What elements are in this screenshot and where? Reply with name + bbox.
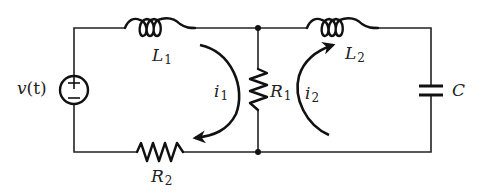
inductor-l2 xyxy=(307,18,378,36)
voltage-source xyxy=(60,76,88,104)
label-r1: R1 xyxy=(270,83,291,102)
circuit-diagram xyxy=(0,0,484,195)
resistor-r2 xyxy=(137,143,183,161)
label-l2: L2 xyxy=(345,45,365,64)
label-source: v(t) xyxy=(17,80,47,97)
junction-top xyxy=(255,25,261,31)
label-r2: R2 xyxy=(151,168,172,187)
label-l1: L1 xyxy=(152,47,172,66)
label-i1: i1 xyxy=(214,83,228,102)
capacitor-c xyxy=(419,86,443,95)
resistor-r1 xyxy=(250,69,267,110)
junction-bottom xyxy=(255,149,261,155)
inductor-l1 xyxy=(125,18,195,36)
label-c: C xyxy=(452,82,465,99)
label-i2: i2 xyxy=(305,85,319,104)
